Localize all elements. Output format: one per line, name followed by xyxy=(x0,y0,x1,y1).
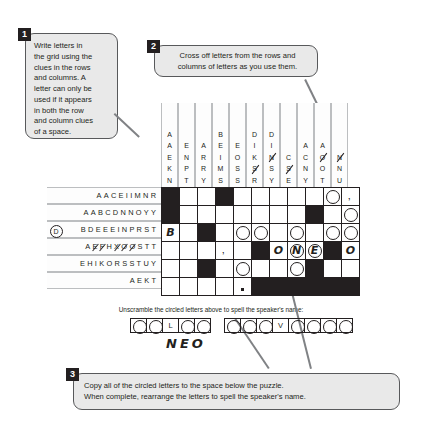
column-clue-letter[interactable]: S xyxy=(218,175,223,187)
row-clue-letter[interactable]: T xyxy=(136,259,143,268)
row-clue-letter[interactable]: N xyxy=(120,208,128,217)
row-clue-letter[interactable]: R xyxy=(114,259,122,268)
row-clue-letter[interactable]: D xyxy=(113,208,121,217)
column-clue-letter[interactable]: Y xyxy=(303,175,308,187)
grid-cell[interactable]: E xyxy=(306,242,324,260)
grid-cell[interactable] xyxy=(324,206,342,224)
answer-box[interactable] xyxy=(336,318,353,333)
grid-cell-apostrophe[interactable] xyxy=(216,242,234,260)
row-clue-letter[interactable]: E xyxy=(95,225,102,234)
row-clue-letter[interactable]: S xyxy=(137,242,144,251)
column-clue[interactable]: ACNY xyxy=(297,103,314,187)
column-clue-letter[interactable]: K xyxy=(167,163,172,175)
column-clue-letter[interactable]: D xyxy=(269,129,274,141)
answer-box[interactable] xyxy=(288,318,305,333)
row-clue[interactable]: EHIKORSSTUY xyxy=(47,255,161,272)
column-clue-letter[interactable]: A xyxy=(320,140,325,152)
grid-cell[interactable] xyxy=(324,260,342,278)
grid-cell[interactable] xyxy=(288,260,306,278)
grid-cell[interactable] xyxy=(162,260,180,278)
grid-cell[interactable] xyxy=(216,260,234,278)
column-clue-letter[interactable]: E xyxy=(167,152,172,164)
row-clue-letter[interactable]: O xyxy=(129,242,137,251)
row-clue[interactable]: AACEIIMNR xyxy=(47,187,161,204)
grid-cell[interactable] xyxy=(198,206,216,224)
column-clue-letter[interactable]: I xyxy=(254,140,256,152)
grid-cell[interactable] xyxy=(306,224,324,242)
grid-cell[interactable] xyxy=(216,278,234,296)
grid-cell[interactable]: B xyxy=(162,224,180,242)
row-clue-letter[interactable]: N xyxy=(143,191,151,200)
grid-cell[interactable] xyxy=(234,224,252,242)
column-clue-letter[interactable]: R xyxy=(201,152,206,164)
grid-cell[interactable] xyxy=(198,242,216,260)
grid-cell[interactable] xyxy=(324,188,342,206)
column-clue-letter[interactable]: P xyxy=(184,163,189,175)
column-clue[interactable]: DINSY xyxy=(263,103,280,187)
column-clue-letter[interactable]: R xyxy=(201,163,206,175)
grid-cell[interactable] xyxy=(180,242,198,260)
row-clue-letter[interactable]: A xyxy=(129,276,136,285)
column-clue-letter[interactable]: O xyxy=(320,152,325,164)
grid-cell[interactable] xyxy=(234,188,252,206)
column-clue-letter[interactable]: S xyxy=(252,163,257,175)
row-clue-letter[interactable]: Y xyxy=(151,208,158,217)
answer-box[interactable] xyxy=(256,318,273,333)
grid-cell[interactable] xyxy=(288,224,306,242)
column-clue-letter[interactable]: B xyxy=(218,129,223,141)
grid-cell[interactable] xyxy=(180,188,198,206)
column-clue-letter[interactable]: N xyxy=(167,175,172,187)
column-clue-letter[interactable]: I xyxy=(271,140,273,152)
row-clue-letter[interactable]: R xyxy=(136,225,144,234)
grid-cell[interactable] xyxy=(162,278,180,296)
row-clue[interactable]: AEFHXOOSTT xyxy=(47,238,161,255)
row-clue-letter[interactable]: C xyxy=(105,208,113,217)
column-clue-letter[interactable]: E xyxy=(184,140,189,152)
row-clue-letter[interactable]: K xyxy=(144,276,151,285)
row-clue[interactable]: DBDEEEINPRST xyxy=(47,221,161,238)
column-clue-letter[interactable]: N xyxy=(303,163,308,175)
grid-cell[interactable] xyxy=(180,206,198,224)
row-clue-letter[interactable]: S xyxy=(144,225,151,234)
grid-cell[interactable] xyxy=(270,260,288,278)
row-clue-letter[interactable]: B xyxy=(98,208,105,217)
column-clue[interactable]: AOOT xyxy=(314,103,331,187)
row-clue-letter[interactable]: E xyxy=(80,259,87,268)
column-clue[interactable]: CSE xyxy=(280,103,297,187)
column-clue[interactable]: EOSS xyxy=(229,103,246,187)
grid-cell[interactable] xyxy=(234,242,252,260)
column-clue-letter[interactable]: N xyxy=(269,152,274,164)
grid-cell[interactable] xyxy=(198,188,216,206)
column-clue-letter[interactable]: C xyxy=(303,152,308,164)
row-clue-letter[interactable]: A xyxy=(96,191,103,200)
column-clue-letter[interactable]: I xyxy=(220,152,222,164)
answer-box[interactable] xyxy=(178,318,195,333)
grid-cell[interactable] xyxy=(216,206,234,224)
column-clue-letter[interactable]: A xyxy=(167,129,172,141)
row-clue-letter[interactable]: D xyxy=(88,225,96,234)
column-clue-letter[interactable]: S xyxy=(235,175,240,187)
row-clue-letter[interactable]: A xyxy=(90,208,97,217)
column-clue-letter[interactable]: A xyxy=(303,140,308,152)
row-clue-letter[interactable]: A xyxy=(85,242,92,251)
grid-cell[interactable] xyxy=(252,224,270,242)
column-clue-letter[interactable]: S xyxy=(235,163,240,175)
row-clue-letter[interactable]: S xyxy=(122,259,129,268)
column-clue-letter[interactable]: T xyxy=(184,175,188,187)
row-clue-letter[interactable]: T xyxy=(151,242,158,251)
grid-cell[interactable] xyxy=(234,260,252,278)
row-clue-letter[interactable]: C xyxy=(111,191,119,200)
column-clue[interactable]: AAEKN xyxy=(161,103,178,187)
answer-box[interactable]: V xyxy=(272,318,289,333)
answer-box[interactable] xyxy=(194,318,211,333)
grid-cell[interactable] xyxy=(306,188,324,206)
grid-cell-period[interactable] xyxy=(234,278,252,296)
grid-cell[interactable] xyxy=(288,188,306,206)
column-clue[interactable]: ENPT xyxy=(178,103,195,187)
answer-box[interactable] xyxy=(146,318,163,333)
column-clue-letter[interactable]: O xyxy=(235,152,240,164)
row-clue-letter[interactable]: A xyxy=(83,208,90,217)
row-clue-letter[interactable]: H xyxy=(106,242,114,251)
column-clue-letter[interactable]: T xyxy=(320,175,324,187)
answer-box[interactable]: L xyxy=(162,318,179,333)
